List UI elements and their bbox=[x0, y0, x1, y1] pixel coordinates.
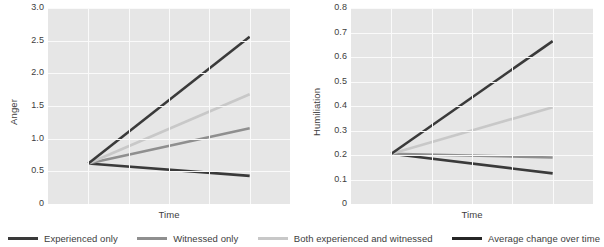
legend-item[interactable]: Average change over time bbox=[452, 233, 600, 244]
legend-item[interactable]: Witnessed only bbox=[137, 233, 238, 244]
legend-item[interactable]: Experienced only bbox=[8, 233, 118, 244]
vertical-gridline bbox=[472, 8, 473, 204]
y-axis-tick-label: 0.7 bbox=[321, 27, 347, 37]
y-axis-tick-labels-humiliation: 00.10.20.30.40.50.60.70.8 bbox=[321, 8, 347, 204]
y-axis-tick-label: 0.3 bbox=[321, 125, 347, 135]
vertical-gridline bbox=[391, 8, 392, 204]
legend-swatch-icon bbox=[137, 237, 167, 240]
y-axis-tick-label: 0 bbox=[18, 198, 44, 208]
legend-swatch-icon bbox=[8, 237, 38, 240]
legend-label: Experienced only bbox=[44, 233, 118, 244]
y-axis-tick-label: 0 bbox=[321, 198, 347, 208]
chart-panel-anger: Anger 00.51.01.52.02.53.0 Time bbox=[0, 0, 300, 225]
chart-panel-humiliation: Humiliation 00.10.20.30.40.50.60.70.8 Ti… bbox=[303, 0, 604, 225]
vertical-gridline bbox=[209, 8, 210, 204]
plot-area-humiliation bbox=[351, 8, 593, 204]
vertical-gridline bbox=[432, 8, 433, 204]
y-axis-tick-label: 0.2 bbox=[321, 149, 347, 159]
vertical-gridline bbox=[88, 8, 89, 204]
legend-label: Witnessed only bbox=[173, 233, 238, 244]
vertical-gridline bbox=[512, 8, 513, 204]
vertical-gridline bbox=[169, 8, 170, 204]
y-axis-tick-label: 0.8 bbox=[321, 2, 347, 12]
y-axis-tick-label: 0.4 bbox=[321, 100, 347, 110]
y-axis-tick-label: 1.0 bbox=[18, 133, 44, 143]
figure-container: Anger 00.51.01.52.02.53.0 Time Humiliati… bbox=[0, 0, 604, 247]
vertical-gridline bbox=[250, 8, 251, 204]
y-axis-tick-label: 0.5 bbox=[18, 165, 44, 175]
y-axis-tick-label: 2.0 bbox=[18, 67, 44, 77]
legend-label: Average change over time bbox=[488, 233, 600, 244]
legend-swatch-icon bbox=[258, 237, 288, 240]
legend-item[interactable]: Both experienced and witnessed bbox=[258, 233, 433, 244]
y-axis-tick-label: 0.1 bbox=[321, 174, 347, 184]
legend-swatch-icon bbox=[452, 237, 482, 240]
legend-label: Both experienced and witnessed bbox=[294, 233, 433, 244]
y-axis-tick-labels-anger: 00.51.01.52.02.53.0 bbox=[18, 8, 44, 204]
y-axis-tick-label: 0.6 bbox=[321, 51, 347, 61]
y-axis-tick-label: 0.5 bbox=[321, 76, 347, 86]
y-axis-tick-label: 2.5 bbox=[18, 35, 44, 45]
vertical-gridline bbox=[553, 8, 554, 204]
y-axis-tick-label: 3.0 bbox=[18, 2, 44, 12]
chart-legend: Experienced onlyWitnessed onlyBoth exper… bbox=[0, 229, 604, 247]
plot-area-anger bbox=[48, 8, 290, 204]
x-axis-label-humiliation: Time bbox=[351, 209, 593, 220]
y-axis-tick-label: 1.5 bbox=[18, 100, 44, 110]
x-axis-label-anger: Time bbox=[48, 209, 290, 220]
vertical-gridline bbox=[129, 8, 130, 204]
